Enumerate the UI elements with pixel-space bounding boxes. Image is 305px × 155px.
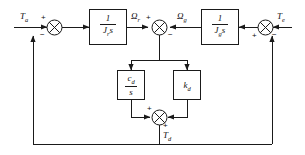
left-summing-junction-symbol	[47, 20, 62, 35]
input-torque-electric-label: Te	[277, 12, 285, 23]
generator-inertia-block-expression: 1 Jgs	[204, 13, 236, 38]
block-diagram-canvas: Ta Te Ωr Ωg Td 1 Jrs 1 Jgs cd s kd + − +…	[0, 0, 305, 155]
center-sum-output-down-wire	[131, 35, 187, 70]
center-summing-junction-symbol	[152, 20, 167, 35]
center-sum-sign-left: +	[146, 14, 151, 22]
bottom-sum-sign-left: +	[147, 105, 152, 113]
damping-integrator-block-expression: cd s	[119, 73, 143, 98]
input-torque-aero-label: Ta	[20, 12, 28, 23]
rotor-inertia-block-expression: 1 Jrs	[92, 13, 124, 38]
right-summing-junction-symbol	[258, 20, 273, 35]
left-sum-sign-bottom: −	[40, 31, 45, 39]
omega-rotor-label: Ωr	[131, 12, 140, 23]
stiffness-gain-block-expression: kd	[175, 80, 199, 92]
torsion-torque-label: Td	[163, 131, 171, 142]
left-sum-sign-top: +	[41, 14, 46, 22]
right-sum-sign-bottom: +	[252, 32, 257, 40]
diagram-wires-layer	[0, 0, 305, 155]
right-sum-sign-right: −	[272, 31, 277, 39]
stiffness-block-output-wire	[168, 100, 187, 117]
center-sum-sign-right: −	[168, 31, 173, 39]
bottom-sum-sign-bottom: +	[163, 122, 168, 130]
omega-generator-label: Ωg	[177, 12, 187, 23]
feedback-bus-wire	[33, 36, 272, 144]
